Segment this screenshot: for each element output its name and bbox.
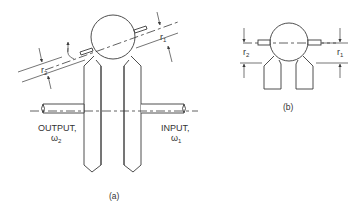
r2-upper-extension <box>18 57 62 72</box>
left-tool-body-b <box>264 56 281 89</box>
input-shaft <box>141 104 186 113</box>
r2-lower-extension <box>22 60 85 82</box>
output-label: OUTPUT, <box>38 123 77 133</box>
r2-arrow-bottom <box>48 76 51 89</box>
caption-b: (b) <box>283 102 294 112</box>
gear-circle-a <box>91 15 135 59</box>
r1-label-a: r1 <box>160 32 167 43</box>
output-omega-label: ω2 <box>51 133 62 144</box>
r2-label-a: r2 <box>41 65 48 76</box>
left-stub-shaft-a <box>80 48 93 55</box>
right-tool-body-b <box>296 56 313 89</box>
r2-arrow-top <box>39 48 42 62</box>
r1-label-b: r1 <box>337 47 344 58</box>
gear-tool-diagram: r1 r2 OUTPUT, ω2 INPUT, ω1 (a) <box>0 0 359 208</box>
diagram-part-a: r1 r2 OUTPUT, ω2 INPUT, ω1 (a) <box>18 12 198 201</box>
left-tool-body <box>84 56 101 172</box>
right-stub-shaft-a <box>134 26 147 33</box>
r1-arrow-bottom <box>168 46 172 62</box>
output-shaft <box>42 104 85 113</box>
rotation-angle-arc <box>68 48 74 59</box>
right-stub-shaft-b <box>308 40 321 45</box>
input-omega-label: ω1 <box>171 133 182 144</box>
r2-label-b: r2 <box>243 47 250 58</box>
caption-a: (a) <box>109 191 120 201</box>
r1-arrow-top <box>157 12 160 25</box>
gear-circle-b <box>270 23 308 61</box>
left-stub-shaft-b <box>258 40 270 45</box>
right-tool-body <box>124 56 141 172</box>
diagram-part-b: r2 r1 (b) <box>240 23 348 112</box>
input-label: INPUT, <box>161 123 190 133</box>
